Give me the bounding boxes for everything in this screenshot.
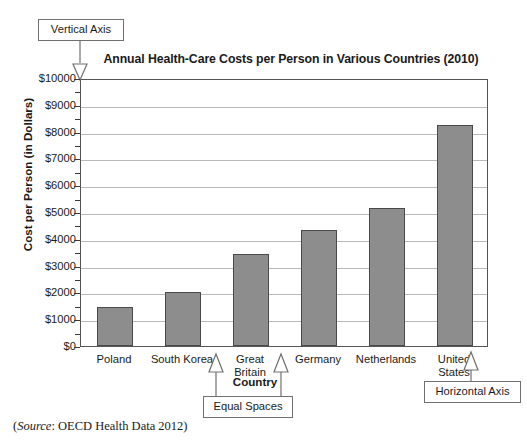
gridline <box>81 268 487 269</box>
y-axis-tick-major <box>74 293 80 294</box>
plot-area <box>80 79 488 347</box>
y-axis-tick-label: $9000 <box>4 100 76 111</box>
gridline <box>81 294 487 295</box>
chart-title: Annual Health-Care Costs per Person in V… <box>85 52 497 66</box>
gridline <box>81 214 487 215</box>
y-axis-tick-minor <box>75 173 80 174</box>
callout-equal-spaces: Equal Spaces <box>203 396 293 418</box>
y-axis-tick-major <box>74 320 80 321</box>
y-axis-tick-label: $8000 <box>4 127 76 138</box>
gridline <box>81 134 487 135</box>
y-axis-tick-label: $4000 <box>4 234 76 245</box>
y-axis-tick-minor <box>75 92 80 93</box>
y-axis-tick-minor <box>75 146 80 147</box>
gridline <box>81 160 487 161</box>
bar <box>301 230 337 346</box>
y-axis-tick-major <box>74 133 80 134</box>
y-axis-tick-label: $5000 <box>4 207 76 218</box>
source-label: Source <box>17 419 51 433</box>
gridline <box>81 107 487 108</box>
x-axis-title: Country <box>205 375 305 388</box>
bar <box>437 125 473 346</box>
x-axis-tick-label: United States <box>409 353 499 378</box>
y-axis-tick-label: $6000 <box>4 180 76 191</box>
bar <box>165 292 201 346</box>
y-axis-tick-minor <box>75 307 80 308</box>
y-axis-tick-minor <box>75 200 80 201</box>
y-axis-tick-minor <box>75 280 80 281</box>
y-axis-tick-label: $0 <box>4 341 76 352</box>
y-axis-tick-label: $2000 <box>4 287 76 298</box>
y-axis-tick-major <box>74 186 80 187</box>
y-axis-tick-major <box>74 347 80 348</box>
y-axis-tick-major <box>74 159 80 160</box>
bar <box>233 254 269 346</box>
chart-figure: Annual Health-Care Costs per Person in V… <box>0 0 527 443</box>
y-axis-tick-label: $10000 <box>4 73 76 84</box>
bar <box>97 307 133 346</box>
y-axis-tick-major <box>74 79 80 80</box>
y-axis-tick-minor <box>75 226 80 227</box>
gridline <box>81 187 487 188</box>
gridline <box>81 241 487 242</box>
y-axis-tick-label: $1000 <box>4 314 76 325</box>
y-axis-tick-minor <box>75 119 80 120</box>
y-axis-tick-minor <box>75 253 80 254</box>
y-axis-tick-minor <box>75 334 80 335</box>
callout-horizontal-axis: Horizontal Axis <box>424 381 521 403</box>
y-axis-tick-major <box>74 240 80 241</box>
y-axis-tick-major <box>74 213 80 214</box>
y-axis-tick-label: $3000 <box>4 261 76 272</box>
bar <box>369 208 405 346</box>
y-axis-tick-major <box>74 267 80 268</box>
gridline <box>81 321 487 322</box>
y-axis-tick-major <box>74 106 80 107</box>
source-note: (Source: OECD Health Data 2012) <box>13 419 188 434</box>
callout-vertical-axis: Vertical Axis <box>38 19 124 41</box>
y-axis-tick-label: $7000 <box>4 153 76 164</box>
source-text: : OECD Health Data 2012) <box>51 419 187 433</box>
y-axis-tick-labels: $10000$9000$8000$7000$6000$5000$4000$300… <box>0 0 76 443</box>
